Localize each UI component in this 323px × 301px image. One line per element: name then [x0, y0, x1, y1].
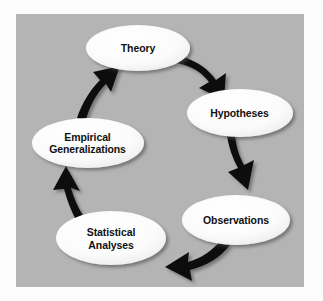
node-observations[interactable] [182, 195, 290, 245]
node-theory[interactable] [86, 25, 190, 71]
arrow-observations-to-statistical [165, 240, 230, 281]
node-hypotheses[interactable] [187, 89, 293, 137]
arrow-empirical-to-theory [77, 66, 120, 120]
wheel-of-science-diagram: Theory Hypotheses Observations Statistic… [0, 0, 323, 301]
node-statistical-analyses[interactable] [56, 211, 166, 265]
arrow-statistical-to-empirical [53, 166, 84, 222]
cycle-graphics [0, 0, 323, 301]
node-empirical-generalizations[interactable] [32, 118, 144, 168]
arrow-hypotheses-to-observations [227, 134, 254, 190]
